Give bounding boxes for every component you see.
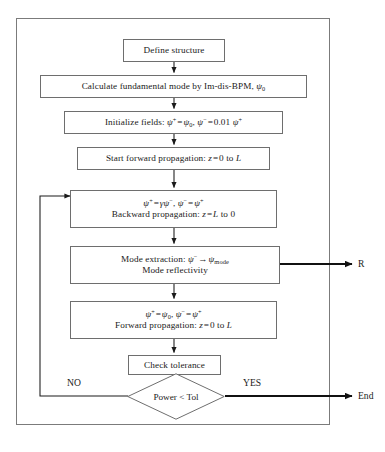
- node-initialize-fields[interactable]: Initialize fields: ψ+ = ψ0, ψ− = 0.01 ψ+: [64, 111, 283, 134]
- node-check-tolerance-line-1: Check tolerance: [144, 360, 205, 371]
- node-define-structure-line-1: Define structure: [143, 45, 204, 56]
- node-define-structure[interactable]: Define structure: [123, 39, 225, 62]
- node-power-less-than-tol[interactable]: Power < Tol: [127, 373, 225, 420]
- node-calculate-fundamental-mode-line-1: Calculate fundamental mode by Im-dis-BPM…: [82, 81, 266, 92]
- node-start-forward-propagation-line-1: Start forward propagation: z = 0 to L: [106, 153, 241, 164]
- node-forward-propagation-line-2: Forward propagation: z = 0 to L: [115, 320, 232, 331]
- figure-canvas: Define structure Calculate fundamental m…: [0, 0, 385, 452]
- node-forward-propagation-line-1: ψ+ = ψ0, ψ− = ψ+: [145, 309, 201, 320]
- node-backward-propagation[interactable]: ψ+ = γψ−, ψ− = ψ+ Backward propagation: …: [70, 190, 277, 228]
- node-backward-propagation-line-1: ψ+ = γψ−, ψ− = ψ+: [143, 198, 203, 209]
- node-initialize-fields-line-1: Initialize fields: ψ+ = ψ0, ψ− = 0.01 ψ+: [105, 117, 242, 128]
- output-label-reflectivity: R: [358, 258, 364, 269]
- output-label-end: End: [358, 390, 373, 401]
- node-check-tolerance[interactable]: Check tolerance: [128, 355, 221, 375]
- node-backward-propagation-line-2: Backward propagation: z = L to 0: [112, 209, 235, 220]
- node-power-less-than-tol-label: Power < Tol: [127, 373, 225, 420]
- node-start-forward-propagation[interactable]: Start forward propagation: z = 0 to L: [77, 147, 270, 170]
- node-mode-extraction-line-2: Mode reflectivity: [142, 265, 208, 276]
- edge-label-yes: YES: [243, 377, 261, 388]
- node-mode-extraction-line-1: Mode extraction: ψ− → ψmode: [121, 254, 229, 265]
- node-calculate-fundamental-mode[interactable]: Calculate fundamental mode by Im-dis-BPM…: [40, 75, 307, 98]
- node-forward-propagation[interactable]: ψ+ = ψ0, ψ− = ψ+ Forward propagation: z …: [70, 301, 277, 339]
- edge-label-no: NO: [67, 377, 81, 388]
- node-mode-extraction[interactable]: Mode extraction: ψ− → ψmode Mode reflect…: [70, 246, 280, 284]
